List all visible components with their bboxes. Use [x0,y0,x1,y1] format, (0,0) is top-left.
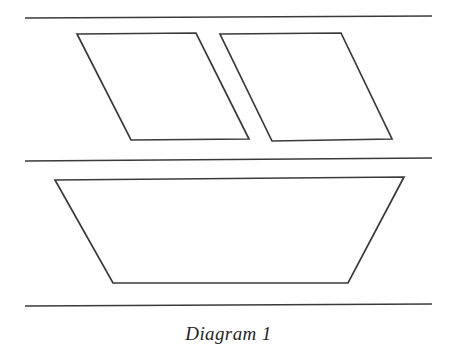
geometry-canvas [0,0,457,353]
figure-caption: Diagram 1 [0,322,457,346]
top-guide-line [25,16,432,18]
parallelogram-left [77,33,249,140]
middle-guide-line [25,158,432,161]
diagram-figure: Diagram 1 [0,0,457,353]
trapezoid-bottom [55,177,404,283]
parallelogram-right [220,33,392,141]
bottom-guide-line [25,304,432,306]
